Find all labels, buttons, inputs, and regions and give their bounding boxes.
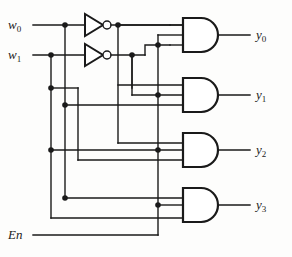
label-w1-name: w	[8, 47, 17, 62]
junction-en-tap-and0	[155, 42, 161, 48]
label-w1: w1	[8, 48, 21, 61]
label-y3-sub: 3	[262, 204, 267, 214]
label-y1: y1	[256, 88, 266, 101]
label-y2-name: y	[256, 142, 262, 157]
label-y0: y0	[256, 28, 266, 41]
junction-w0bar-bus	[115, 22, 121, 28]
inverter-w0-triangle	[85, 14, 103, 36]
label-w0-name: w	[8, 17, 17, 32]
junction-en-tap-and3	[155, 202, 161, 208]
and-gate-0-body	[183, 18, 218, 52]
junction-en-tap-and2	[155, 147, 161, 153]
label-y1-sub: 1	[262, 94, 267, 104]
junction-en-tap-and1	[155, 92, 161, 98]
and-gate-2-body	[183, 133, 218, 167]
label-y0-name: y	[256, 27, 262, 42]
label-y2: y2	[256, 143, 266, 156]
circuit-schematic-svg	[0, 0, 292, 257]
inverter-w1-triangle	[85, 44, 103, 66]
junction-w1-bus	[48, 52, 54, 58]
label-en: En	[8, 228, 22, 241]
label-w1-sub: 1	[17, 54, 22, 64]
label-w0: w0	[8, 18, 21, 31]
junction-w0-tap-and1	[62, 102, 68, 108]
circuit-diagram: w0 w1 En y0 y1 y2 y3	[0, 0, 292, 257]
and-gate-1-body	[183, 78, 218, 112]
junction-w1bar-bus	[129, 52, 135, 58]
inverter-w0-bubble	[103, 21, 111, 29]
junction-w0-bus	[62, 22, 68, 28]
label-w0-sub: 0	[17, 24, 22, 34]
label-y3-name: y	[256, 197, 262, 212]
inverter-w1-bubble	[103, 51, 111, 59]
label-en-name: En	[8, 227, 22, 242]
and-gate-3-body	[183, 188, 218, 222]
label-y2-sub: 2	[262, 149, 267, 159]
junction-w0-tap-and3	[62, 195, 68, 201]
label-y0-sub: 0	[262, 34, 267, 44]
junction-w1-tap-and2	[48, 85, 54, 91]
label-y1-name: y	[256, 87, 262, 102]
label-y3: y3	[256, 198, 266, 211]
junction-w1-tap-and2-mid	[48, 147, 54, 153]
